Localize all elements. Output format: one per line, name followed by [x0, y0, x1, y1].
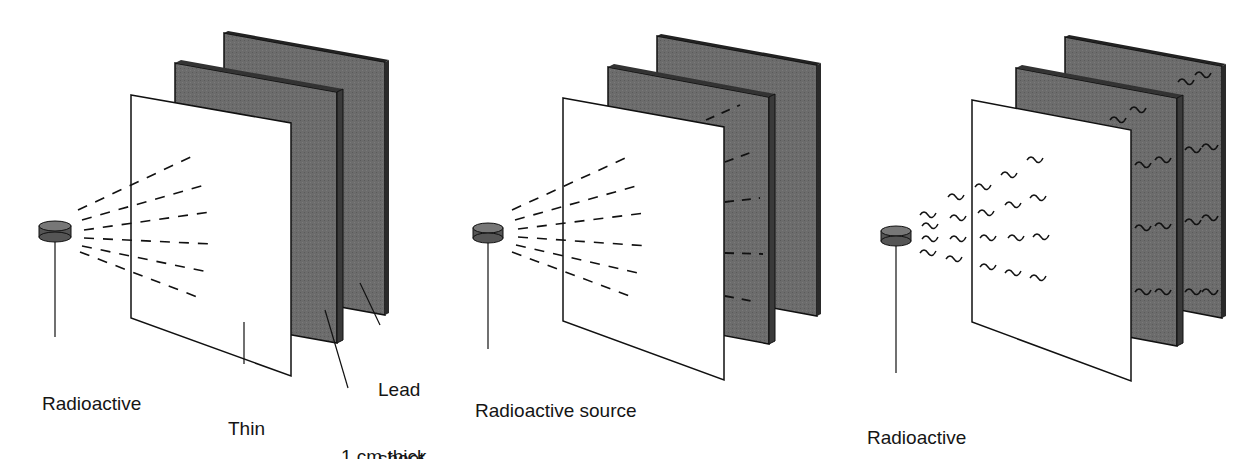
paper-sheet [972, 100, 1131, 381]
lead-label-line1: Lead [378, 378, 424, 401]
radioactive-source-beta [473, 223, 503, 243]
lead-sheet-label: Lead sheet [378, 332, 424, 459]
radioactive-source-gamma [881, 226, 911, 246]
radioactive-source-alpha [39, 221, 71, 242]
paper-label-line1: Thin [228, 417, 296, 440]
alpha-source-label-line1: Radioactive [42, 392, 171, 415]
gamma-source-label-line1: Radioactive [867, 426, 1052, 449]
lead-label-line2: sheet [378, 447, 424, 459]
gamma-source-label: Radioactive source emitting γ rays [867, 380, 1052, 459]
alpha-source-label: Radioactive source emitting α particles [42, 346, 171, 459]
panel-alpha [39, 31, 389, 388]
beta-source-label: Radioactive source emitting β particles [475, 353, 637, 459]
paper-sheet [131, 95, 291, 376]
panel-beta [473, 34, 821, 380]
paper-sheet [563, 98, 724, 380]
panel-gamma [881, 35, 1226, 381]
paper-sheet-label: Thin sheet of paper [228, 371, 296, 459]
beta-source-label-line1: Radioactive source [475, 399, 637, 422]
